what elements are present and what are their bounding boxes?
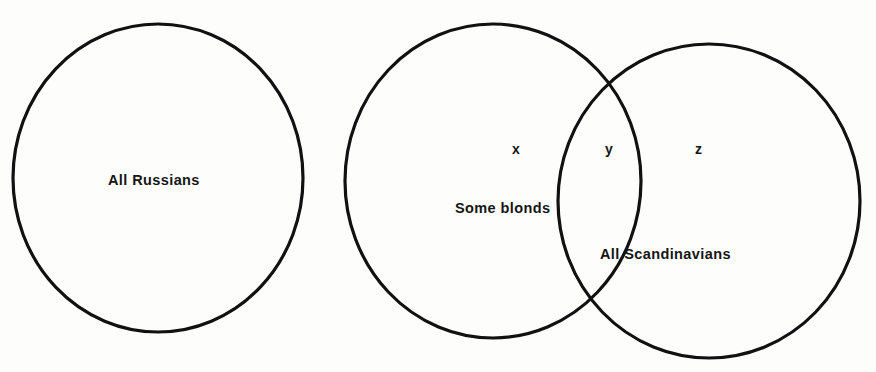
set-label-all-scandinavians: All Scandinavians <box>600 246 731 262</box>
region-label-x: x <box>512 141 520 157</box>
region-label-z: z <box>695 141 702 157</box>
region-label-y: y <box>605 141 613 157</box>
set-label-all-russians: All Russians <box>108 172 200 188</box>
venn-diagram-figure: All Russians Some blonds All Scandinavia… <box>0 0 876 372</box>
circle-some-blonds <box>345 24 641 338</box>
circle-all-scandinavians <box>558 44 860 358</box>
set-label-some-blonds: Some blonds <box>455 200 550 216</box>
